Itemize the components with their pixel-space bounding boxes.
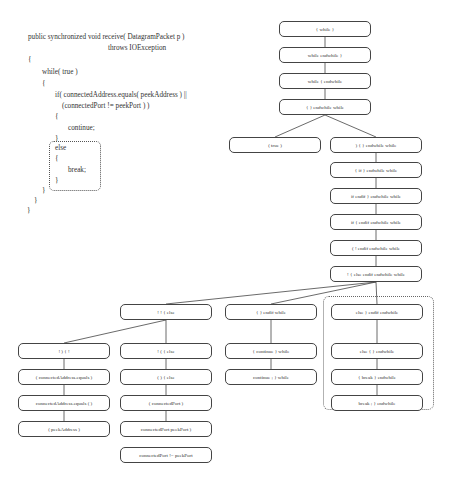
- tree-node: ) { } endwhile while: [330, 137, 422, 153]
- tree-node: while endwhile }: [279, 47, 371, 63]
- tree-node: ( connectedPort ): [120, 395, 212, 411]
- tree-node: else { } endwhile: [331, 343, 423, 359]
- tree-node: { } endwhile while: [279, 99, 371, 115]
- tree-node: connectedPort peekPort ): [120, 421, 212, 437]
- tree-node: ! ( { else: [120, 343, 212, 359]
- tree-node: { } endif while: [225, 304, 317, 320]
- tree-node: if { endif endwhile while: [330, 214, 422, 230]
- tree-node: ( true ): [229, 137, 321, 153]
- tree-node: ( ! endif endwhile while: [330, 240, 422, 256]
- tree-node: { break } endwhile: [331, 369, 423, 385]
- tree-node: ! ! { else: [120, 304, 212, 320]
- tree-node: ! { else endif endwhile while: [330, 266, 422, 282]
- tree-node: connectedPort != peekPort: [120, 447, 212, 463]
- tree-node: continue ; } while: [225, 369, 317, 385]
- tree-node: ! ) { !: [18, 343, 110, 359]
- tree-node: ( peekAddress ): [18, 421, 110, 437]
- tree-node: { while }: [279, 21, 371, 37]
- tree-node: else } endif endwhile: [331, 304, 423, 320]
- tree-node: ( ) { else: [120, 369, 212, 385]
- tree-node: { if } endwhile while: [330, 162, 422, 178]
- tree-node: break ; } endwhile: [331, 395, 423, 411]
- tree-node: while { endwhile: [279, 73, 371, 89]
- tree-node: ( connectedAddress.equals ): [18, 369, 110, 385]
- tree-node: { continue } while: [225, 343, 317, 359]
- tree-node: connectedAddress.equals ( ): [18, 395, 110, 411]
- tree-node: if endif } endwhile while: [330, 188, 422, 204]
